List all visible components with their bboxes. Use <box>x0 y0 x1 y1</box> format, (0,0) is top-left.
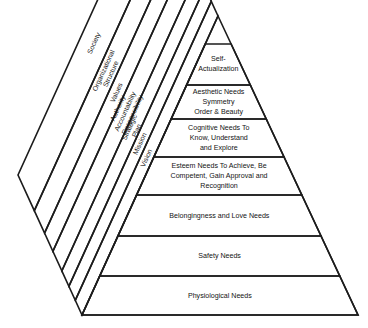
tier-label-safety-needs: Safety Needs <box>198 252 241 260</box>
pyramid-diagram: Self-ActualizationAesthetic NeedsSymmetr… <box>0 0 368 328</box>
tier-label-physiological-needs: Physiological Needs <box>188 292 252 300</box>
tier-label-belongingness-love-needs: Belongingness and Love Needs <box>169 212 270 220</box>
hierarchy-pyramid-svg: Self-ActualizationAesthetic NeedsSymmetr… <box>0 0 368 328</box>
